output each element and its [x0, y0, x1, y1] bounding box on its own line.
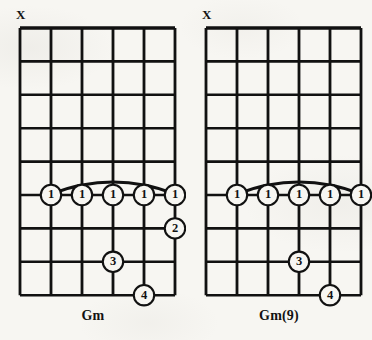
- chord-name-label: Gm: [0, 308, 186, 324]
- finger-marker: 1: [227, 185, 247, 205]
- finger-number: 1: [172, 187, 178, 201]
- finger-number: 3: [110, 254, 116, 268]
- finger-number: 3: [296, 254, 302, 268]
- mute-marker-x: X: [16, 8, 25, 21]
- fretboard: 11111234: [0, 0, 186, 340]
- finger-number: 4: [327, 288, 334, 302]
- finger-marker: 3: [103, 252, 123, 272]
- finger-number: 1: [141, 187, 147, 201]
- finger-marker: 1: [41, 185, 61, 205]
- chord-diagram-gm9: 1111134 X Gm(9): [186, 0, 372, 340]
- finger-marker: 2: [165, 218, 185, 238]
- finger-marker: 1: [320, 185, 340, 205]
- finger-number: 1: [110, 187, 116, 201]
- finger-marker: 3: [289, 252, 309, 272]
- finger-marker: 1: [103, 185, 123, 205]
- chord-name-label: Gm(9): [186, 308, 372, 324]
- chord-diagram-gm: 11111234 X Gm: [0, 0, 186, 340]
- finger-number: 1: [358, 187, 364, 201]
- finger-marker: 1: [351, 185, 371, 205]
- finger-marker: 1: [258, 185, 278, 205]
- finger-number: 1: [296, 187, 302, 201]
- mute-marker-x: X: [202, 8, 211, 21]
- finger-marker: 1: [72, 185, 92, 205]
- finger-number: 2: [172, 221, 178, 235]
- finger-marker: 4: [320, 285, 340, 305]
- finger-marker: 1: [134, 185, 154, 205]
- finger-number: 4: [141, 288, 148, 302]
- finger-number: 1: [79, 187, 85, 201]
- finger-marker: 1: [165, 185, 185, 205]
- finger-marker: 1: [289, 185, 309, 205]
- finger-number: 1: [327, 187, 333, 201]
- fretboard: 1111134: [186, 0, 372, 340]
- finger-marker: 4: [134, 285, 154, 305]
- finger-number: 1: [265, 187, 271, 201]
- finger-number: 1: [234, 187, 240, 201]
- finger-number: 1: [48, 187, 54, 201]
